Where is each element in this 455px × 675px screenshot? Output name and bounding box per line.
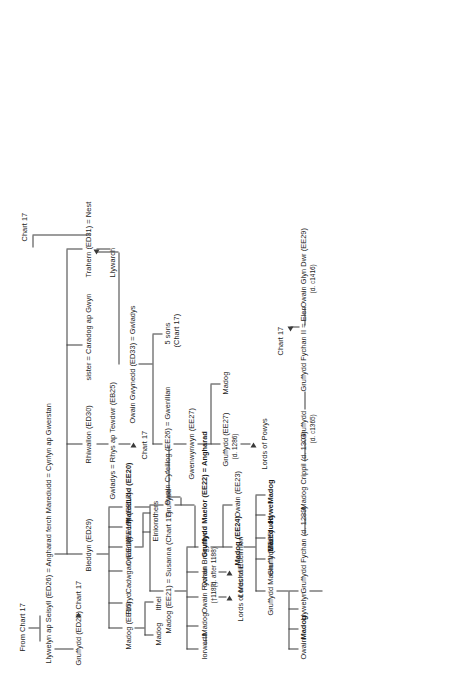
connector-madog-ee24-drop [243,546,255,547]
node-gruffydd-c1365-death: (d. c1365) [308,414,315,443]
connector-drop-gruffydd-maelor [186,546,198,547]
connector-drop-gruffydd-ial [255,558,265,559]
connector-cynfyn-spine-left [54,553,66,554]
connector-chart17-elbow [32,235,33,247]
connector-five-sons-drop [152,333,162,334]
connector-gwladys-drop [118,443,130,444]
connector-from-chart-stem [28,627,39,628]
connector-madog-ee21-drop [149,590,163,591]
connector-drop-gruffydd-maelor-ii [255,590,265,591]
connector-madog-powys-drop [210,383,220,384]
node-owain-glyn-dwr: Owain Glyn Dwr (EE29) [299,228,308,308]
connector-drop-cadwgan [108,570,122,571]
connector-llywarch-drop [96,251,118,252]
arrow-elen-to-chart17 [287,326,293,331]
ref-five-sons-chart17: (Chart 17) [172,313,181,347]
connector-gwenwynwyn-bar [210,384,211,444]
arrow-gwladys-to-chart17 [130,442,136,447]
connector-drop-madog-ee24 [222,546,232,547]
connector-owain-cyfeiliog-to-gwenwynwyn [173,443,186,444]
connector-madog-ee21-children-drop [174,590,186,591]
connector-gruffydd-jog-f [194,505,195,547]
node-gruffydd-c1365: Gruffydd [299,410,308,439]
connector-gruffydd-ee27-drop [210,443,220,444]
connector-drop-owain-brogyntyn [186,571,198,572]
node-gwenwynwyn-ee27: Gwenwynwyn (EE27) [187,408,196,480]
ref-gwladys-chart17: Chart 17 [140,430,149,459]
node-hywel: Hywel [266,501,275,523]
node-owain-glyn-dwr-death: (d. c1416) [308,264,315,293]
node-gruffydd-ee27: Gruffydd (EE27) [221,412,230,466]
connector-madog-ee16-drop [134,627,144,628]
connector-gruffydd-to-fychan-ii [304,391,305,409]
connector-gruffydd-jog-e [180,504,194,505]
connector-fychan-ii-to-glyn-dwr [304,307,305,325]
connector-owain-cyfeiliog-drop [152,443,162,444]
connector-gruffydd-ee27-to-powys [240,443,250,444]
node-madog-d: Madog [266,479,275,503]
connector-fychan-to-crippil [304,509,305,535]
connector-drop-madog-c [186,625,198,626]
node-rhiwallon-ed30: Rhiwallon (ED30) [84,405,93,463]
connector-crippil-to-gruffydd [304,439,305,461]
node-root-marriage: Llywelyn ap Seisyll (ED26) = Angharad fe… [44,403,53,663]
connector-cynfyn-spine [66,249,67,554]
node-owain-e: Owain [299,638,308,659]
node-trahern-ed31: Trahern (ED31) = Nest [84,201,93,277]
connector-drop-rhiryd [108,602,122,603]
connector-owain-gwynedd-bar [152,334,153,444]
node-owain-ee23: Owain (EE23) [233,470,242,517]
connector-drop-madog-e [288,628,298,629]
connector-gruffydd-maelor-drop [210,546,222,547]
connector-drop-owain-ee23 [222,504,232,505]
connector-madog-ee21-children-bar [186,547,187,649]
node-madog-son-of-madog-ee16: Madog [154,622,163,645]
node-iorwerth-b: Iorwerth [200,632,209,659]
node-gruffydd-ed28: Gruffydd (ED28) [74,611,83,665]
node-sister-caradog: sister = Caradog ap Gwyn [84,293,93,380]
connector-drop-maredudd-b [255,537,265,538]
connector-owain-fychan-down [218,596,226,597]
connector-bleddyn-children-bar [108,507,109,628]
node-owain-cyfeiliog: Owain Cyfeiliog (EE26) = Gwenllian [163,386,172,505]
node-madog-crippil: Madog Crippil (d. 1304) [299,431,308,509]
node-madog-ee24: Madog (EE24) [233,516,242,565]
connector-gruffydd-jog-c [168,496,180,497]
connector-drop-llywelyn [288,608,298,609]
connector-chart17-stem [32,234,90,235]
connector-owain-ee19-drop [134,546,142,547]
arrow-to-lords-of-mechain [226,595,232,600]
node-gruffydd-fychan-1289: Gruffydd Fychan (d. 1289) [299,506,308,593]
connector-drop-owain-fychan [186,596,198,597]
connector-llywarch-to-owain-gwynedd [118,252,119,364]
connector-maredudd-children-bar [149,505,150,591]
node-llywelyn: Llywelyn [299,591,308,620]
connector-gruffydd-jog-d [168,445,169,497]
node-gruffydd-ee27-death: (d. 1286) [230,433,237,459]
arrow-to-lords-of-edeirnion [226,570,232,575]
connector-ed26-down [54,648,73,649]
connector-madog-ee24-children-bar [255,495,256,591]
connector-owain-gwynedd-drop [138,363,152,364]
connector-drop-rhiwallon [66,443,82,444]
node-gruffydd-maelor-ii-ee25: Gruffydd Maelor II (EE25) [266,530,275,615]
connector-ithel-drop [144,601,153,602]
ref-trahern-chart17: Chart 17 [20,212,29,241]
node-owain-gwynedd: Owain Gwynedd (ED33) = Gwladys [128,305,137,423]
connector-einion-others-bar [142,513,143,547]
connector-madog-ee16-bar [144,602,145,635]
connector-gruffydd-maelor-children-bar [222,505,223,547]
node-five-sons: 5 sons [163,322,172,344]
node-madog-c: Madog [200,612,209,635]
connector-gruffydd-maelor-ii-children-bar [288,591,289,649]
connector-drop-maredudd-ee20 [108,506,122,507]
node-einion: Einion [151,520,160,541]
node-gruffydd-fychan-ii: Gruffydd Fychan II = Elen [299,306,308,391]
connector-from-chart-bar [39,615,40,641]
node-rhiryd: Rhiryd [124,592,133,614]
arrow-gruffydd-ed28-to-chart17 [75,612,81,617]
connector-drop-madog-ee16 [108,627,122,628]
connector-bleddyn-drop [96,553,108,554]
connector-maredudd-ee20-drop [134,506,149,507]
connector-drop-hywel [255,514,265,515]
